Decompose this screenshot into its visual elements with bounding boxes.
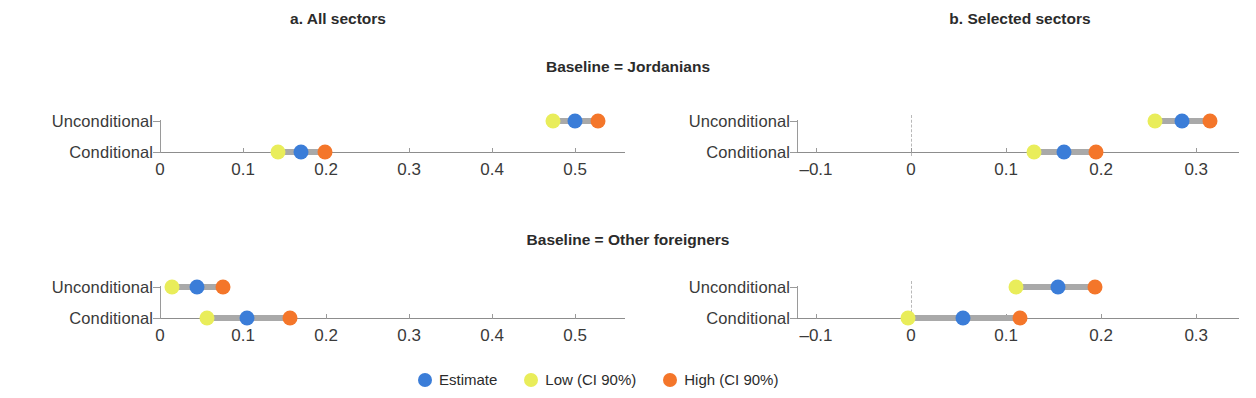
y-axis-tick bbox=[790, 152, 797, 153]
y-axis-tick bbox=[790, 287, 797, 288]
x-axis-line bbox=[160, 152, 625, 153]
data-point-high[interactable] bbox=[590, 114, 605, 129]
legend-label-high: High (CI 90%) bbox=[684, 371, 778, 388]
y-axis-label-conditional: Conditional bbox=[69, 143, 153, 162]
x-axis-tick-label: 0.5 bbox=[563, 326, 587, 346]
y-axis-line bbox=[797, 120, 798, 152]
y-axis-label-conditional: Conditional bbox=[706, 309, 790, 328]
x-axis-tick bbox=[1196, 148, 1197, 153]
x-axis-tick-label: 0 bbox=[155, 160, 164, 180]
data-point-low[interactable] bbox=[545, 114, 560, 129]
data-point-low[interactable] bbox=[1026, 145, 1041, 160]
x-axis-tick bbox=[1101, 314, 1102, 319]
y-axis-tick bbox=[153, 287, 160, 288]
figure-canvas: a. All sectors b. Selected sectors Basel… bbox=[0, 0, 1256, 398]
y-axis-label-unconditional: Unconditional bbox=[689, 112, 790, 131]
plot-all-sectors-other-foreigners: UnconditionalConditional00.10.20.30.40.5 bbox=[160, 278, 625, 324]
legend-swatch-high-icon bbox=[663, 373, 677, 387]
x-axis-tick-label: 0.3 bbox=[397, 326, 421, 346]
x-axis-tick-label: 0 bbox=[155, 326, 164, 346]
x-axis-tick-label: 0.2 bbox=[1089, 326, 1113, 346]
x-axis-tick bbox=[1196, 314, 1197, 319]
x-axis-tick bbox=[160, 148, 161, 153]
y-axis-label-unconditional: Unconditional bbox=[52, 278, 153, 297]
y-axis-label-unconditional: Unconditional bbox=[52, 112, 153, 131]
x-axis-tick-label: 0.2 bbox=[314, 326, 338, 346]
y-axis-label-conditional: Conditional bbox=[69, 309, 153, 328]
data-point-high[interactable] bbox=[1089, 145, 1104, 160]
x-axis-tick-label: 0.4 bbox=[480, 326, 504, 346]
group-title-jordanians: Baseline = Jordanians bbox=[528, 58, 728, 76]
x-axis-tick bbox=[409, 314, 410, 319]
x-axis-tick bbox=[575, 314, 576, 319]
x-axis-tick-label: 0.1 bbox=[231, 160, 255, 180]
x-axis-tick bbox=[911, 148, 912, 153]
panel-title-b: b. Selected sectors bbox=[920, 10, 1120, 28]
plot-selected-sectors-other-foreigners: UnconditionalConditional–0.100.10.20.3 bbox=[797, 278, 1239, 324]
x-axis-tick-label: 0 bbox=[906, 160, 915, 180]
y-axis-tick bbox=[153, 152, 160, 153]
data-point-low[interactable] bbox=[1008, 280, 1023, 295]
legend-label-estimate: Estimate bbox=[439, 371, 497, 388]
data-point-estimate[interactable] bbox=[1057, 145, 1072, 160]
x-axis-line bbox=[797, 152, 1239, 153]
data-point-low[interactable] bbox=[901, 311, 916, 326]
plot-selected-sectors-jordanians: UnconditionalConditional–0.100.10.20.3 bbox=[797, 112, 1239, 158]
x-axis-tick-label: 0 bbox=[906, 326, 915, 346]
x-axis-tick-label: 0.3 bbox=[397, 160, 421, 180]
y-axis-label-conditional: Conditional bbox=[706, 143, 790, 162]
data-point-low[interactable] bbox=[164, 280, 179, 295]
legend-item-high[interactable]: High (CI 90%) bbox=[663, 371, 778, 388]
x-axis-tick-label: 0.5 bbox=[563, 160, 587, 180]
x-axis-tick bbox=[1006, 148, 1007, 153]
legend-item-estimate[interactable]: Estimate bbox=[418, 371, 497, 388]
x-axis-tick bbox=[816, 148, 817, 153]
panel-title-a: a. All sectors bbox=[238, 10, 438, 28]
x-axis-tick-label: –0.1 bbox=[799, 160, 832, 180]
x-axis-tick-label: 0.3 bbox=[1184, 160, 1208, 180]
data-point-estimate[interactable] bbox=[294, 145, 309, 160]
data-point-low[interactable] bbox=[270, 145, 285, 160]
data-point-high[interactable] bbox=[283, 311, 298, 326]
x-axis-tick bbox=[816, 314, 817, 319]
data-point-high[interactable] bbox=[216, 280, 231, 295]
y-axis-tick bbox=[153, 121, 160, 122]
legend-item-low[interactable]: Low (CI 90%) bbox=[524, 371, 636, 388]
y-axis-tick bbox=[790, 121, 797, 122]
data-point-estimate[interactable] bbox=[190, 280, 205, 295]
x-axis-tick-label: 0.2 bbox=[1089, 160, 1113, 180]
data-point-high[interactable] bbox=[1203, 114, 1218, 129]
x-axis-tick bbox=[575, 148, 576, 153]
data-point-estimate[interactable] bbox=[1051, 280, 1066, 295]
x-axis-tick-label: 0.3 bbox=[1184, 326, 1208, 346]
data-point-high[interactable] bbox=[1087, 280, 1102, 295]
group-title-other-foreigners: Baseline = Other foreigners bbox=[513, 231, 743, 249]
x-axis-tick bbox=[409, 148, 410, 153]
data-point-high[interactable] bbox=[318, 145, 333, 160]
x-axis-tick-label: 0.2 bbox=[314, 160, 338, 180]
x-axis-tick bbox=[160, 314, 161, 319]
legend-swatch-low-icon bbox=[524, 373, 538, 387]
y-axis-label-unconditional: Unconditional bbox=[689, 278, 790, 297]
x-axis-tick-label: 0.1 bbox=[994, 326, 1018, 346]
x-axis-tick bbox=[243, 148, 244, 153]
x-axis-tick bbox=[492, 148, 493, 153]
data-point-estimate[interactable] bbox=[240, 311, 255, 326]
y-axis-tick bbox=[790, 318, 797, 319]
figure-legend: EstimateLow (CI 90%)High (CI 90%) bbox=[418, 371, 796, 388]
x-axis-tick bbox=[326, 314, 327, 319]
y-axis-line bbox=[797, 286, 798, 318]
x-axis-tick bbox=[492, 314, 493, 319]
y-axis-tick bbox=[153, 318, 160, 319]
data-point-estimate[interactable] bbox=[956, 311, 971, 326]
data-point-estimate[interactable] bbox=[568, 114, 583, 129]
x-axis-tick-label: 0.4 bbox=[480, 160, 504, 180]
data-point-low[interactable] bbox=[200, 311, 215, 326]
legend-swatch-estimate-icon bbox=[418, 373, 432, 387]
x-axis-tick-label: 0.1 bbox=[994, 160, 1018, 180]
data-point-estimate[interactable] bbox=[1174, 114, 1189, 129]
legend-label-low: Low (CI 90%) bbox=[545, 371, 636, 388]
data-point-low[interactable] bbox=[1148, 114, 1163, 129]
x-axis-tick-label: 0.1 bbox=[231, 326, 255, 346]
data-point-high[interactable] bbox=[1013, 311, 1028, 326]
